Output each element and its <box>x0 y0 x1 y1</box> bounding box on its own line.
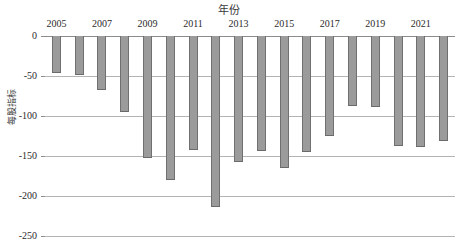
bar <box>75 36 84 75</box>
plot-area: 0-50-100-150-200-250 2005200720092011201… <box>45 36 455 236</box>
y-tick-mark <box>41 116 45 117</box>
bar <box>234 36 243 162</box>
gridline <box>45 156 455 157</box>
y-tick-label: -200 <box>0 191 37 201</box>
bar <box>143 36 152 158</box>
bar <box>439 36 448 141</box>
y-tick-mark <box>41 36 45 37</box>
y-tick-mark <box>41 76 45 77</box>
gridline <box>45 196 455 197</box>
gridline <box>45 236 455 237</box>
x-tick-label: 2019 <box>355 18 395 29</box>
x-tick-label: 2015 <box>264 18 304 29</box>
bar <box>97 36 106 90</box>
bar-chart: 年份 每股指标 0-50-100-150-200-250 20052007200… <box>0 0 458 250</box>
x-tick-label: 2013 <box>219 18 259 29</box>
x-tick-label: 2007 <box>82 18 122 29</box>
bar <box>166 36 175 180</box>
y-tick-label: -50 <box>0 71 37 81</box>
x-tick-label: 2011 <box>173 18 213 29</box>
y-tick-mark <box>41 196 45 197</box>
bar <box>394 36 403 146</box>
x-tick-label: 2005 <box>36 18 76 29</box>
y-tick-mark <box>41 156 45 157</box>
y-tick-label: -150 <box>0 151 37 161</box>
x-tick-label: 2009 <box>128 18 168 29</box>
y-tick-label: 0 <box>0 31 37 41</box>
bar <box>211 36 220 207</box>
y-tick-mark <box>41 236 45 237</box>
bar <box>325 36 334 136</box>
bar <box>302 36 311 152</box>
bar <box>189 36 198 150</box>
y-tick-label: -250 <box>0 231 37 241</box>
y-tick-label: -100 <box>0 111 37 121</box>
x-tick-label: 2021 <box>401 18 441 29</box>
bar <box>120 36 129 112</box>
bar <box>280 36 289 168</box>
bar <box>257 36 266 151</box>
bar <box>371 36 380 107</box>
chart-title: 年份 <box>0 1 458 17</box>
x-tick-label: 2017 <box>310 18 350 29</box>
y-axis-title: 每股指标 <box>5 72 18 142</box>
bar <box>348 36 357 106</box>
bar <box>416 36 425 147</box>
bar <box>52 36 61 73</box>
